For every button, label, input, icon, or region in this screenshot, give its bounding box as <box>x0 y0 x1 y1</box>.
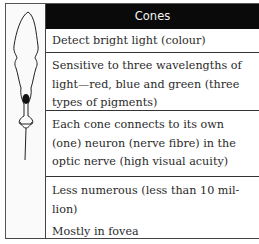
cones-table: Cones Detect bright light (colour) Sensi… <box>46 4 259 238</box>
illustration-column <box>6 4 46 238</box>
row-text: types of pigments) <box>52 94 255 113</box>
row-text: (one) neuron (nerve fibre) in the <box>52 135 255 154</box>
table-row: Each cone connects to its own (one) neur… <box>46 111 259 177</box>
table-row: Detect bright light (colour) <box>46 29 259 53</box>
row-text: Sensitive to three wavelengths of <box>52 57 255 76</box>
table-row: Less numerous (less than 10 mil- lion) M… <box>46 177 259 239</box>
row-text: Mostly in fovea <box>52 223 255 242</box>
table-header: Cones <box>46 4 259 29</box>
row-text: Detect bright light (colour) <box>52 32 255 51</box>
row-text: Each cone connects to its own <box>52 116 255 135</box>
table-row: Sensitive to three wavelengths of light—… <box>46 53 259 111</box>
row-text: light—red, blue and green (three <box>52 76 255 95</box>
row-text: optic nerve (high visual acuity) <box>52 153 255 172</box>
cone-cell-diagram-icon <box>6 4 46 240</box>
cones-table-frame: Cones Detect bright light (colour) Sensi… <box>5 3 259 239</box>
row-text: lion) <box>52 201 255 220</box>
row-text: Less numerous (less than 10 mil- <box>52 182 255 201</box>
